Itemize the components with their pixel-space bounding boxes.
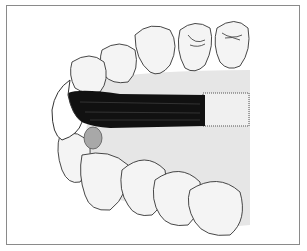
brush-bristles <box>68 91 205 128</box>
plaque-deposit <box>84 127 102 149</box>
brush-handle <box>203 93 249 126</box>
dental-illustration <box>0 0 307 251</box>
